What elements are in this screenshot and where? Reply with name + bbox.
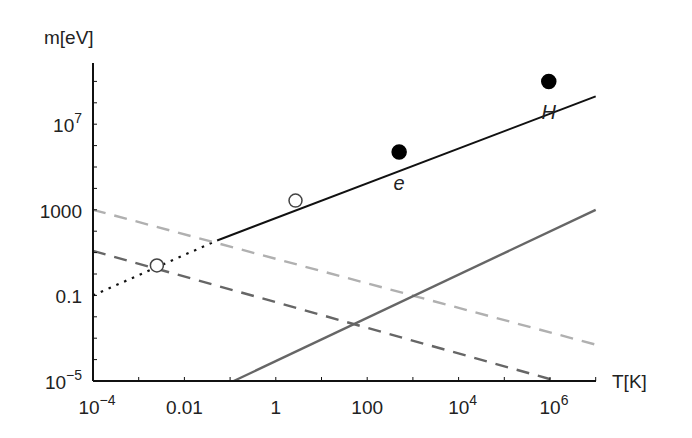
open-circle-high-marker [289, 194, 302, 207]
plot-lines [93, 96, 596, 381]
black-solid-with-dotted-extension [217, 96, 596, 240]
y-tick-label: 10−5 [45, 367, 82, 393]
open-circle-low-marker [150, 259, 163, 272]
hydrogen-label: H [542, 101, 557, 123]
hydrogen-marker [542, 74, 556, 88]
y-tick-label: 0.1 [56, 286, 82, 307]
x-tick-label: 104 [448, 392, 477, 418]
x-tick-label: 1 [271, 397, 282, 418]
electron-label: e [394, 172, 405, 194]
y-tick-label: 107 [53, 110, 82, 136]
x-tick-label: 10−4 [78, 392, 115, 418]
x-tick-label: 100 [351, 397, 383, 418]
x-axis-label: T[K] [612, 371, 647, 392]
y-axis-label: m[eV] [44, 27, 94, 48]
x-tick-label: 0.01 [166, 397, 203, 418]
light-gray-dashed [93, 210, 596, 345]
y-tick-label: 1000 [40, 201, 82, 222]
mass-temperature-chart: 10−40.01110010410610−50.11000107 eH m[eV… [0, 0, 692, 438]
gray-solid [234, 210, 596, 381]
tick-labels: 10−40.01110010410610−50.11000107 [40, 110, 569, 418]
axes [93, 63, 596, 381]
electron-marker [392, 145, 406, 159]
x-tick-label: 106 [540, 392, 569, 418]
